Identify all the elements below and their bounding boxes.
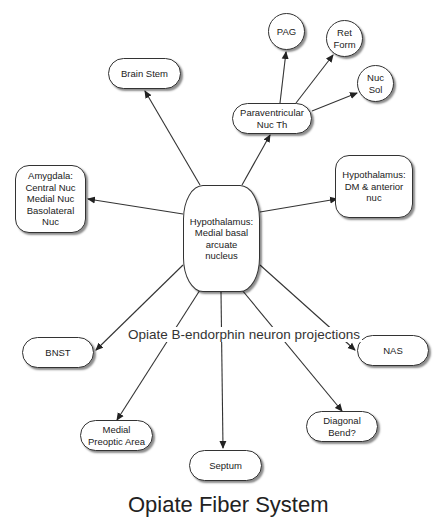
pag-node: PAG: [268, 13, 305, 50]
paraventricular-node: Paraventricular Nuc Th: [232, 103, 312, 134]
diagonal-band-node: Diagonal Bend?: [306, 411, 378, 442]
hypothalamus-arcuate-node: Hypothalamus: Medial basal arcuate nucle…: [183, 185, 260, 292]
brain-stem-node: Brain Stem: [108, 58, 181, 89]
hypothalamus-dm-node: Hypothalamus: DM & anterior nuc: [335, 155, 413, 218]
footer-title: Opiate Fiber System: [128, 492, 329, 518]
edge-center-brainstem: [145, 91, 200, 185]
nuc-sol-node: Nuc Sol: [357, 65, 394, 102]
ret-form-node: Ret Form: [326, 20, 363, 57]
edge-center-hypothalamus-dm: [260, 199, 337, 212]
diagram-caption: Opiate B-endorphin neuron projections: [126, 327, 362, 342]
edge-center-paraventricular: [242, 135, 270, 185]
edge-center-medial-preoptic: [117, 290, 200, 420]
medial-preoptic-node: Medial Preoptic Area: [80, 420, 153, 451]
edge-paraventricular-nucsol: [312, 93, 357, 111]
septum-node: Septum: [189, 450, 262, 481]
bnst-node: BNST: [22, 337, 94, 368]
amygdala-node: Amygdala: Central Nuc Medial Nuc Basolat…: [15, 165, 86, 233]
edge-paraventricular-retform: [296, 55, 333, 103]
nas-node: NAS: [357, 335, 429, 366]
edge-center-septum: [221, 292, 223, 448]
edge-center-diagonal: [242, 290, 342, 411]
edge-paraventricular-pag: [280, 52, 286, 103]
edge-center-amygdala: [88, 199, 183, 214]
